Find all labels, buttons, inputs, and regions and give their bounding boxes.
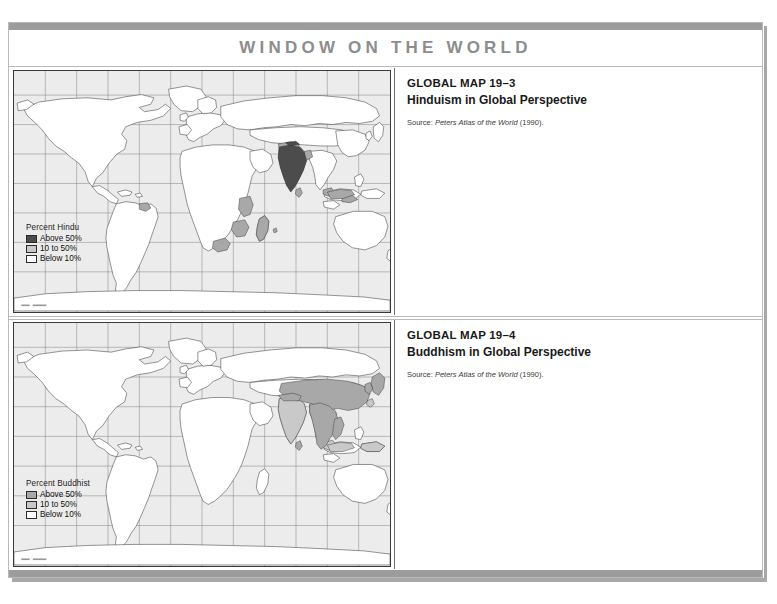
source-suffix: (1990). — [518, 370, 544, 379]
map-source: Source: Peters Atlas of the World (1990)… — [407, 117, 752, 128]
legend-label: Below 10% — [40, 510, 81, 520]
legend-swatch-above-50 — [26, 235, 37, 243]
row-divider-top — [9, 316, 762, 317]
column-divider — [394, 68, 395, 315]
legend-title: Percent Hindu — [26, 223, 82, 232]
frame-bottom-band — [9, 570, 762, 577]
map-caption-hinduism: GLOBAL MAP 19–3 Hinduism in Global Persp… — [407, 76, 752, 128]
source-title: Peters Atlas of the World — [435, 370, 518, 379]
column-divider — [394, 320, 395, 569]
legend-item: 10 to 50% — [26, 500, 90, 510]
legend-label: Above 50% — [40, 490, 82, 500]
map-caption-buddhism: GLOBAL MAP 19–4 Buddhism in Global Persp… — [407, 328, 752, 380]
source-prefix: Source: — [407, 370, 435, 379]
source-title: Peters Atlas of the World — [435, 118, 518, 127]
content-area: Percent Hindu Above 50% 10 to 50% Below … — [9, 68, 762, 569]
map-number-label: GLOBAL MAP 19–4 — [407, 328, 752, 343]
legend-item: Above 50% — [26, 234, 82, 244]
map-frame: Percent Buddhist Above 50% 10 to 50% Bel… — [13, 322, 391, 567]
legend-label: Above 50% — [40, 234, 82, 244]
legend-swatch-above-50 — [26, 491, 37, 499]
page-sheet: WINDOW ON THE WORLD — [8, 22, 763, 578]
legend-swatch-10-to-50 — [26, 245, 37, 253]
page-header: WINDOW ON THE WORLD — [9, 30, 762, 67]
map-figure-hinduism[interactable]: Percent Hindu Above 50% 10 to 50% Below … — [13, 70, 391, 313]
world-map-buddhism — [14, 323, 390, 566]
source-suffix: (1990). — [518, 118, 544, 127]
map-frame: Percent Hindu Above 50% 10 to 50% Below … — [13, 70, 391, 313]
source-prefix: Source: — [407, 118, 435, 127]
legend-title: Percent Buddhist — [26, 479, 90, 488]
legend-label: Below 10% — [40, 254, 81, 264]
legend-swatch-below-10 — [26, 255, 37, 263]
page-title: WINDOW ON THE WORLD — [9, 38, 762, 58]
page-shadow-right — [764, 26, 767, 582]
legend-swatch-10-to-50 — [26, 501, 37, 509]
map-legend-hinduism: Percent Hindu Above 50% 10 to 50% Below … — [26, 223, 82, 265]
legend-item: Below 10% — [26, 510, 90, 520]
map-block-hinduism: Percent Hindu Above 50% 10 to 50% Below … — [9, 68, 762, 315]
frame-top-band — [9, 23, 762, 30]
legend-item: 10 to 50% — [26, 244, 82, 254]
page-shadow-bottom — [12, 578, 767, 582]
legend-label: 10 to 50% — [40, 244, 77, 254]
legend-item: Below 10% — [26, 254, 82, 264]
map-block-buddhism: Percent Buddhist Above 50% 10 to 50% Bel… — [9, 320, 762, 569]
legend-swatch-below-10 — [26, 511, 37, 519]
map-legend-buddhism: Percent Buddhist Above 50% 10 to 50% Bel… — [26, 479, 90, 521]
map-title: Hinduism in Global Perspective — [407, 92, 752, 109]
map-number-label: GLOBAL MAP 19–3 — [407, 76, 752, 91]
legend-item: Above 50% — [26, 490, 90, 500]
map-title: Buddhism in Global Perspective — [407, 344, 752, 361]
map-figure-buddhism[interactable]: Percent Buddhist Above 50% 10 to 50% Bel… — [13, 322, 391, 567]
map-source: Source: Peters Atlas of the World (1990)… — [407, 369, 752, 380]
legend-label: 10 to 50% — [40, 500, 77, 510]
world-map-hinduism — [14, 71, 390, 312]
